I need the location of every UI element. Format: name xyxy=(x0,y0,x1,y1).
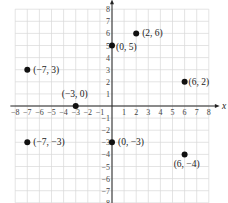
y-tick-label: 1 xyxy=(106,90,110,99)
data-point xyxy=(73,103,79,109)
x-axis-arrow-icon xyxy=(215,104,220,108)
point-label: (−7, −3) xyxy=(33,137,64,148)
x-tick-label: −8 xyxy=(11,108,20,117)
point-label: (6, 2) xyxy=(189,77,210,88)
y-tick-label: −7 xyxy=(101,187,110,196)
y-tick-label: 4 xyxy=(106,54,110,63)
axes: x xyxy=(10,0,227,203)
x-tick-label: 2 xyxy=(134,108,138,117)
y-tick-label: 8 xyxy=(106,5,110,14)
x-tick-label: 5 xyxy=(171,108,175,117)
y-tick-label: 2 xyxy=(106,78,110,87)
x-tick-label: −6 xyxy=(35,108,44,117)
x-tick-label: 8 xyxy=(207,108,211,117)
y-tick-label: 7 xyxy=(106,17,110,26)
x-tick-label: 3 xyxy=(146,108,150,117)
y-tick-label: 3 xyxy=(106,66,110,75)
x-tick-label: −7 xyxy=(23,108,32,117)
y-tick-label: −8 xyxy=(101,199,110,203)
x-tick-label: −3 xyxy=(71,108,80,117)
point-label: (0, −3) xyxy=(118,137,144,148)
point-label: (6, −4) xyxy=(174,159,200,170)
x-axis-label: x xyxy=(221,101,227,111)
x-tick-label: −5 xyxy=(47,108,56,117)
x-tick-label: −2 xyxy=(84,108,93,117)
y-tick-label: −2 xyxy=(101,126,110,135)
data-point xyxy=(182,151,188,157)
data-points: (−7, 3)(0, 5)(2, 6)(6, 2)(−3, 0)(−7, −3)… xyxy=(24,28,209,170)
point-label: (0, 5) xyxy=(116,42,137,53)
data-point xyxy=(109,139,115,145)
point-label: (2, 6) xyxy=(142,28,163,39)
y-tick-label: −5 xyxy=(101,163,110,172)
data-point xyxy=(24,67,30,73)
x-tick-label: 7 xyxy=(195,108,199,117)
coordinate-plane: x −8−7−6−5−4−3−2−112345678−8−7−6−5−4−3−2… xyxy=(0,0,228,203)
data-point xyxy=(109,43,115,49)
y-tick-label: −3 xyxy=(101,138,110,147)
y-tick-label: −1 xyxy=(101,114,110,123)
x-tick-label: −4 xyxy=(59,108,68,117)
data-point xyxy=(182,79,188,85)
data-point xyxy=(133,30,139,36)
y-tick-label: −6 xyxy=(101,175,110,184)
x-tick-label: 6 xyxy=(183,108,187,117)
y-tick-label: 6 xyxy=(106,29,110,38)
data-point xyxy=(24,139,30,145)
y-tick-label: −4 xyxy=(101,150,110,159)
x-tick-label: 4 xyxy=(158,108,162,117)
point-label: (−7, 3) xyxy=(33,65,59,76)
point-label: (−3, 0) xyxy=(62,89,88,100)
y-axis-arrow-icon xyxy=(110,0,114,4)
tick-labels: −8−7−6−5−4−3−2−112345678−8−7−6−5−4−3−2−1… xyxy=(11,5,211,203)
x-tick-label: 1 xyxy=(122,108,126,117)
